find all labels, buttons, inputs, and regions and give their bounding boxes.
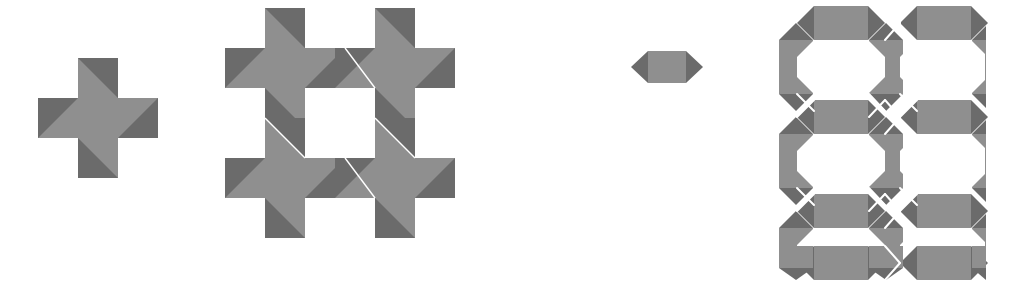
hexagon-tile bbox=[900, 6, 988, 40]
octagon-hole bbox=[900, 228, 985, 246]
hexagon-cap-left-triangle bbox=[900, 100, 917, 134]
hexagon-tile bbox=[797, 6, 885, 40]
hexagon-cap-bottom-triangle bbox=[779, 268, 813, 280]
hexagon-body-rect bbox=[814, 100, 868, 134]
hexagon-body-rect bbox=[814, 6, 868, 40]
figure-sheet: Pinwheel prototile Pinwheel tiling, 2 by… bbox=[0, 0, 1019, 288]
hexagon-body-rect bbox=[917, 6, 971, 40]
figure-4-canvas bbox=[0, 0, 1019, 288]
seam bbox=[885, 6, 900, 23]
hexagon-body-rect bbox=[917, 194, 971, 228]
octagon-hole bbox=[900, 134, 985, 188]
figure-hexagon-tiling bbox=[0, 0, 1019, 288]
hexagon-body-rect bbox=[814, 194, 868, 228]
hexagon-body-rect bbox=[917, 246, 971, 280]
octagon-hole bbox=[797, 40, 885, 94]
octagon-hole bbox=[900, 40, 985, 94]
hexagon-body-rect bbox=[917, 100, 971, 134]
octagon-hole bbox=[797, 134, 885, 188]
hexagon-body-rect bbox=[779, 228, 813, 268]
hexagon-cap-left-triangle bbox=[900, 194, 917, 228]
hexagon-cap-left-triangle bbox=[900, 6, 917, 40]
hexagon-body-rect bbox=[814, 246, 868, 280]
